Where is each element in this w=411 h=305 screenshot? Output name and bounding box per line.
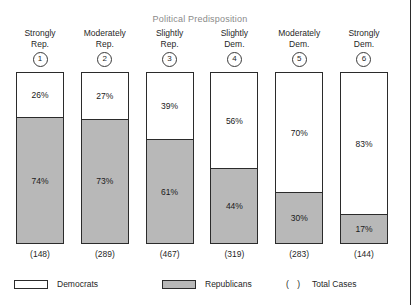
bar-segment-republicans: 61% bbox=[147, 139, 193, 243]
column-header-line2: Rep. bbox=[156, 39, 183, 50]
column-total-cases: (289) bbox=[95, 249, 115, 259]
legend-item-democrats: Democrats bbox=[14, 279, 98, 289]
column-header: SlightlyDem. bbox=[221, 28, 248, 49]
legend-label-republicans: Republicans bbox=[205, 279, 252, 289]
column-header-line1: Strongly bbox=[24, 28, 55, 38]
bar-column-6: StronglyDem.683%17%(144) bbox=[338, 28, 390, 268]
legend-label-total-cases: Total Cases bbox=[312, 279, 356, 289]
bar-column-4: SlightlyDem.456%44%(319) bbox=[208, 28, 260, 268]
legend-swatch-republicans bbox=[162, 280, 196, 289]
column-header-line1: Slightly bbox=[221, 28, 248, 38]
stacked-bar: 56%44% bbox=[210, 72, 258, 244]
bar-segment-democrats: 39% bbox=[147, 73, 193, 139]
column-number-badge: 6 bbox=[356, 52, 371, 67]
bar-segment-democrats: 26% bbox=[17, 73, 63, 117]
column-total-cases: (148) bbox=[30, 249, 50, 259]
column-total-cases: (283) bbox=[289, 249, 309, 259]
bar-column-2: ModeratelyRep.227%73%(289) bbox=[79, 28, 131, 268]
column-header: StronglyDem. bbox=[348, 28, 379, 49]
column-header-line2: Dem. bbox=[221, 39, 248, 50]
bar-segment-republicans: 44% bbox=[211, 168, 257, 243]
chart-legend: Democrats Republicans ( ) Total Cases bbox=[14, 278, 390, 294]
column-total-cases: (144) bbox=[354, 249, 374, 259]
stacked-bar: 70%30% bbox=[275, 72, 323, 244]
stacked-bar: 83%17% bbox=[340, 72, 388, 244]
legend-label-democrats: Democrats bbox=[57, 279, 98, 289]
bar-segment-republicans: 30% bbox=[276, 192, 322, 243]
legend-item-total-cases: ( ) Total Cases bbox=[286, 279, 356, 289]
column-number-badge: 1 bbox=[33, 52, 48, 67]
column-header: ModeratelyRep. bbox=[84, 28, 126, 49]
column-header-line2: Dem. bbox=[278, 39, 320, 50]
bar-column-5: ModeratelyDem.570%30%(283) bbox=[273, 28, 325, 268]
bar-segment-democrats: 83% bbox=[341, 73, 387, 214]
column-header-line2: Rep. bbox=[24, 39, 55, 50]
bar-columns-container: StronglyRep.126%74%(148)ModeratelyRep.22… bbox=[14, 28, 390, 268]
chart-figure: Political Predisposition StronglyRep.126… bbox=[0, 0, 411, 305]
column-header-line1: Moderately bbox=[84, 28, 126, 38]
stacked-bar: 26%74% bbox=[16, 72, 64, 244]
legend-item-republicans: Republicans bbox=[162, 279, 252, 289]
stacked-bar: 39%61% bbox=[146, 72, 194, 244]
bar-segment-republicans: 73% bbox=[82, 119, 128, 243]
bar-segment-democrats: 70% bbox=[276, 73, 322, 192]
column-header: SlightlyRep. bbox=[156, 28, 183, 49]
bar-column-1: StronglyRep.126%74%(148) bbox=[14, 28, 66, 268]
column-number-badge: 3 bbox=[162, 52, 177, 67]
bar-segment-democrats: 56% bbox=[211, 73, 257, 168]
column-header-line1: Moderately bbox=[278, 28, 320, 38]
column-total-cases: (467) bbox=[160, 249, 180, 259]
column-header-line1: Slightly bbox=[156, 28, 183, 38]
column-number-badge: 2 bbox=[97, 52, 112, 67]
column-header: ModeratelyDem. bbox=[278, 28, 320, 49]
bar-column-3: SlightlyRep.339%61%(467) bbox=[144, 28, 196, 268]
column-number-badge: 4 bbox=[227, 52, 242, 67]
chart-title: Political Predisposition bbox=[0, 14, 400, 24]
column-header-line1: Strongly bbox=[348, 28, 379, 38]
bar-segment-republicans: 17% bbox=[341, 214, 387, 243]
bar-segment-democrats: 27% bbox=[82, 73, 128, 119]
legend-swatch-democrats bbox=[14, 280, 48, 289]
parenthesis-symbol: ( ) bbox=[286, 279, 303, 289]
column-header-line2: Dem. bbox=[348, 39, 379, 50]
bar-segment-republicans: 74% bbox=[17, 117, 63, 243]
column-header: StronglyRep. bbox=[24, 28, 55, 49]
stacked-bar: 27%73% bbox=[81, 72, 129, 244]
column-total-cases: (319) bbox=[224, 249, 244, 259]
column-header-line2: Rep. bbox=[84, 39, 126, 50]
column-number-badge: 5 bbox=[292, 52, 307, 67]
